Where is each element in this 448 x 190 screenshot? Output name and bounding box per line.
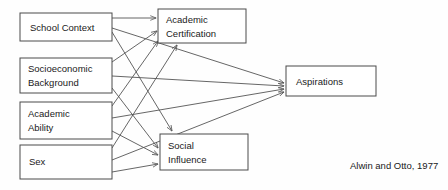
- node-academic-ability-label-line1: Academic: [28, 108, 70, 119]
- node-social-influence[interactable]: Social Influence: [160, 134, 248, 170]
- node-social-influence-label-line2: Influence: [168, 154, 207, 165]
- node-aspirations-label: Aspirations: [296, 76, 343, 87]
- node-academic-certification-label-line1: Academic: [166, 14, 208, 25]
- edge-sex-to-social-influence: [112, 164, 158, 172]
- figure-citation: Alwin and Otto, 1977: [350, 160, 438, 171]
- node-sex[interactable]: Sex: [20, 145, 112, 179]
- node-sex-label: Sex: [29, 156, 46, 167]
- node-academic-ability-label-line2: Ability: [28, 122, 54, 133]
- node-school-context[interactable]: School Context: [20, 13, 112, 41]
- node-socioeconomic-background-label-line1: Socioeconomic: [28, 63, 93, 74]
- node-socioeconomic-background[interactable]: Socioeconomic Background: [20, 58, 112, 93]
- edge-academic-ability-to-social-influence: [112, 131, 158, 155]
- node-layer: School Context Socioeconomic Background …: [20, 9, 376, 179]
- node-social-influence-label-line1: Social: [168, 140, 194, 151]
- node-school-context-label: School Context: [30, 22, 95, 33]
- node-academic-ability[interactable]: Academic Ability: [20, 102, 112, 139]
- node-academic-certification-label-line2: Certification: [166, 28, 216, 39]
- path-diagram-figure: School Context Socioeconomic Background …: [0, 0, 448, 190]
- edge-socioeconomic-background-to-aspirations: [112, 76, 284, 86]
- node-socioeconomic-background-label-line2: Background: [28, 77, 79, 88]
- edge-academic-ability-to-aspirations: [112, 89, 284, 118]
- node-academic-certification[interactable]: Academic Certification: [158, 9, 246, 43]
- node-aspirations[interactable]: Aspirations: [286, 66, 376, 96]
